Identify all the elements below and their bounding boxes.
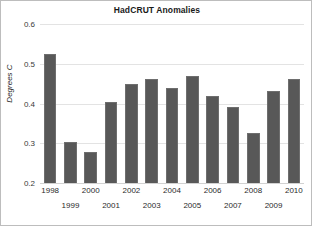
x-axis-tick-label: 2003 bbox=[143, 201, 161, 210]
x-axis-tick-label: 2008 bbox=[244, 186, 262, 195]
x-axis-tick-label: 2001 bbox=[102, 201, 120, 210]
plot-area: 0.20.30.40.50.6 bbox=[40, 24, 304, 183]
bar bbox=[105, 102, 118, 183]
x-axis-tick-label: 2004 bbox=[163, 186, 181, 195]
bar bbox=[145, 79, 158, 183]
y-axis-tick-label: 0.2 bbox=[24, 179, 35, 188]
x-axis-tick-label: 2006 bbox=[204, 186, 222, 195]
bar-series bbox=[40, 24, 304, 183]
bar bbox=[84, 152, 97, 183]
bar bbox=[288, 79, 301, 183]
y-axis-tick-label: 0.3 bbox=[24, 139, 35, 148]
x-axis-tick-label: 2009 bbox=[265, 201, 283, 210]
chart-title: HadCRUT Anomalies bbox=[1, 5, 312, 15]
y-axis-tick-label: 0.5 bbox=[24, 59, 35, 68]
bar bbox=[44, 54, 57, 183]
x-axis-tick-label: 2010 bbox=[285, 186, 303, 195]
bar bbox=[125, 84, 138, 183]
bar bbox=[166, 88, 179, 183]
gridline bbox=[40, 183, 304, 184]
x-axis-tick-label: 1998 bbox=[41, 186, 59, 195]
bar bbox=[64, 142, 77, 183]
x-axis-tick-label: 2000 bbox=[82, 186, 100, 195]
bar bbox=[186, 76, 199, 183]
x-axis-tick-label: 2007 bbox=[224, 201, 242, 210]
chart-figure: HadCRUT Anomalies Degrees C 0.20.30.40.5… bbox=[0, 0, 312, 226]
bar bbox=[247, 133, 260, 183]
y-axis-tick-label: 0.6 bbox=[24, 20, 35, 29]
bar bbox=[267, 91, 280, 183]
y-axis-title: Degrees C bbox=[5, 54, 14, 114]
x-axis-tick-label: 2002 bbox=[122, 186, 140, 195]
bar bbox=[206, 96, 219, 183]
x-axis-tick-label: 1999 bbox=[62, 201, 80, 210]
x-axis-tick-label: 2005 bbox=[183, 201, 201, 210]
bar bbox=[227, 107, 240, 183]
y-axis-tick-label: 0.4 bbox=[24, 99, 35, 108]
